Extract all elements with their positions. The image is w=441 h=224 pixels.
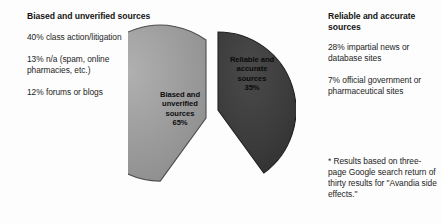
footnote: * Results based on three-page Google sea…	[328, 156, 438, 200]
pie-chart-svg	[128, 22, 296, 214]
right-column-item-1: 28% impartial news or database sites	[328, 42, 441, 64]
pie-slice-reliable	[218, 32, 296, 173]
right-column-item-2: 7% official government or pharmaceutical…	[328, 75, 441, 97]
pie-chart: Biased and unverified sources 65% Reliab…	[128, 22, 296, 214]
pie-chart-figure: Biased and unverified sources 40% class …	[0, 0, 441, 224]
right-column: Reliable and accurate sources 28% impart…	[328, 11, 441, 97]
pie-slice-biased	[128, 25, 206, 181]
right-column-heading: Reliable and accurate sources	[328, 11, 441, 32]
left-column-heading: Biased and unverified sources	[27, 11, 153, 22]
